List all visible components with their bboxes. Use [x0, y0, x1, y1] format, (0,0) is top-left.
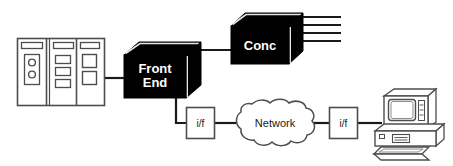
- interface-left-label: i/f: [197, 118, 205, 129]
- concentrator-label: Conc: [244, 38, 277, 53]
- diagram-canvas: Front End Conc: [0, 0, 453, 166]
- mainframe-panel-2-slot-3: [56, 80, 71, 88]
- front-end-box[interactable]: Front End: [124, 42, 201, 98]
- front-end-label-line2: End: [143, 75, 168, 90]
- interface-right-label: i/f: [340, 118, 348, 129]
- mainframe-panel-1-vent: [22, 43, 43, 49]
- network-cloud[interactable]: Network: [237, 99, 315, 145]
- keyboard-keys-area: [379, 149, 423, 152]
- interface-box-right[interactable]: i/f: [330, 108, 358, 139]
- mainframe-cabinet[interactable]: [18, 39, 105, 106]
- mainframe-panel-2-vent: [54, 43, 74, 49]
- concentrator-box[interactable]: Conc: [231, 13, 341, 64]
- mainframe-panel-2-slot-2: [56, 68, 71, 76]
- network-topology-diagram: Front End Conc: [0, 0, 453, 166]
- network-cloud-label: Network: [255, 117, 296, 129]
- link-front-end-to-interface-left: [176, 98, 186, 123]
- mainframe-panel-3-slot-1: [83, 55, 97, 68]
- mainframe-reel-lower: [29, 71, 36, 78]
- system-unit-top-face: [375, 124, 444, 131]
- mainframe-panel-2-slot-1: [56, 56, 71, 64]
- front-end-label-line1: Front: [138, 61, 172, 76]
- mainframe-panel-3-vent: [81, 43, 100, 49]
- mainframe-reel-upper: [29, 59, 36, 66]
- workstation-computer[interactable]: [374, 89, 444, 160]
- system-unit-power-led: [380, 135, 385, 139]
- keyboard-front-face: [374, 154, 429, 160]
- mainframe-panel-3-slot-2: [83, 72, 97, 85]
- monitor-screen-inner: [391, 102, 413, 119]
- monitor-top-face: [384, 89, 436, 96]
- interface-box-left[interactable]: i/f: [187, 108, 215, 139]
- monitor-side-face: [428, 89, 436, 128]
- system-unit-drive-slot[interactable]: [393, 135, 410, 143]
- monitor-controls[interactable]: [419, 101, 425, 121]
